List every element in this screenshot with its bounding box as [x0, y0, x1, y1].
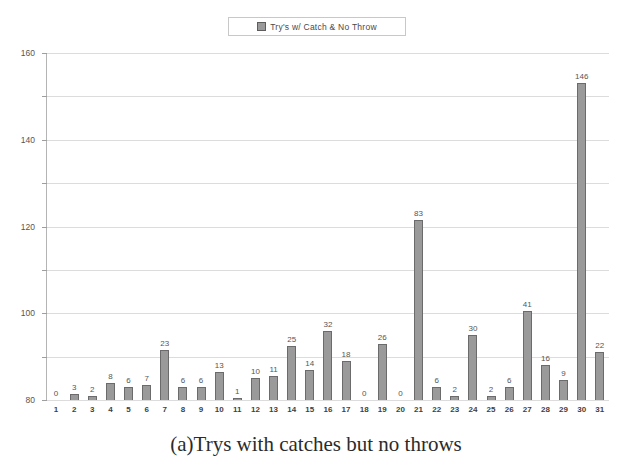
bar-column[interactable]: 2 — [446, 53, 464, 400]
legend-label: Try's w/ Catch & No Throw — [270, 22, 377, 32]
bar-value-label: 18 — [342, 350, 351, 359]
y-tick-label: 80 — [26, 395, 35, 405]
bar[interactable] — [559, 380, 568, 400]
x-tick-label: 13 — [265, 405, 283, 414]
bar-value-label: 25 — [287, 335, 296, 344]
bar-column[interactable]: 32 — [319, 53, 337, 400]
bar-value-label: 2 — [90, 385, 94, 394]
chart-legend: Try's w/ Catch & No Throw — [228, 17, 406, 36]
bar-column[interactable]: 11 — [265, 53, 283, 400]
bar-value-label: 8 — [108, 372, 112, 381]
bar-value-label: 13 — [215, 361, 224, 370]
x-tick-label: 5 — [120, 405, 138, 414]
bar-column[interactable]: 83 — [410, 53, 428, 400]
bar-value-label: 6 — [199, 376, 203, 385]
square-swatch-icon — [257, 22, 266, 31]
plot-area: 020406080100120140160 032867236613110112… — [46, 53, 609, 401]
bar-column[interactable]: 14 — [301, 53, 319, 400]
x-tick-label: 16 — [319, 405, 337, 414]
bar[interactable] — [342, 361, 351, 400]
bar-column[interactable]: 6 — [428, 53, 446, 400]
bar-value-label: 11 — [269, 365, 277, 374]
bar[interactable] — [106, 383, 115, 400]
bar-column[interactable]: 1 — [228, 53, 246, 400]
x-tick-label: 24 — [464, 405, 482, 414]
bar[interactable] — [124, 387, 133, 400]
bar[interactable] — [487, 396, 496, 400]
bar[interactable] — [197, 387, 206, 400]
bar-column[interactable]: 10 — [246, 53, 264, 400]
bar-value-label: 9 — [561, 369, 565, 378]
bar[interactable] — [251, 378, 260, 400]
bar[interactable] — [577, 83, 586, 400]
bar-column[interactable]: 23 — [156, 53, 174, 400]
bar[interactable] — [595, 352, 604, 400]
bar[interactable] — [269, 376, 278, 400]
bar-value-label: 0 — [54, 389, 58, 398]
bar-column[interactable]: 26 — [373, 53, 391, 400]
bar-value-label: 0 — [362, 389, 366, 398]
bar[interactable] — [468, 335, 477, 400]
x-axis-labels: 1234567891011121314151617181920212223242… — [47, 405, 609, 414]
bar-value-label: 146 — [575, 72, 588, 81]
bar[interactable] — [215, 372, 224, 400]
bar-column[interactable]: 2 — [482, 53, 500, 400]
x-tick-label: 26 — [500, 405, 518, 414]
x-tick-label: 25 — [482, 405, 500, 414]
bar-column[interactable]: 2 — [83, 53, 101, 400]
bar[interactable] — [287, 346, 296, 400]
bar-column[interactable]: 18 — [337, 53, 355, 400]
x-tick-label: 15 — [301, 405, 319, 414]
bar-column[interactable]: 8 — [101, 53, 119, 400]
bar-column[interactable]: 146 — [573, 53, 591, 400]
bar-column[interactable]: 6 — [120, 53, 138, 400]
x-tick-label: 2 — [65, 405, 83, 414]
bar[interactable] — [541, 365, 550, 400]
bar[interactable] — [323, 331, 332, 400]
x-tick-label: 18 — [355, 405, 373, 414]
bar-column[interactable]: 3 — [65, 53, 83, 400]
bar[interactable] — [233, 398, 242, 400]
bar-value-label: 2 — [453, 385, 457, 394]
x-tick-label: 29 — [555, 405, 573, 414]
bar-column[interactable]: 7 — [138, 53, 156, 400]
x-tick-label: 20 — [391, 405, 409, 414]
bar-value-label: 2 — [489, 385, 493, 394]
bar[interactable] — [432, 387, 441, 400]
bar[interactable] — [305, 370, 314, 400]
bar[interactable] — [160, 350, 169, 400]
bar-value-label: 16 — [541, 354, 550, 363]
bar[interactable] — [178, 387, 187, 400]
bar-column[interactable]: 9 — [555, 53, 573, 400]
x-tick-label: 31 — [591, 405, 609, 414]
y-tick-mark: 0 — [42, 400, 47, 401]
x-tick-label: 19 — [373, 405, 391, 414]
bar-column[interactable]: 6 — [500, 53, 518, 400]
bar-column[interactable]: 16 — [536, 53, 554, 400]
bar[interactable] — [414, 220, 423, 400]
bar-column[interactable]: 6 — [192, 53, 210, 400]
bar[interactable] — [70, 394, 79, 401]
x-tick-label: 22 — [428, 405, 446, 414]
x-tick-label: 27 — [518, 405, 536, 414]
bar-column[interactable]: 30 — [464, 53, 482, 400]
bar-column[interactable]: 13 — [210, 53, 228, 400]
bar-column[interactable]: 6 — [174, 53, 192, 400]
bar[interactable] — [142, 385, 151, 400]
bar-column[interactable]: 0 — [355, 53, 373, 400]
bar-value-label: 6 — [181, 376, 185, 385]
x-tick-label: 7 — [156, 405, 174, 414]
bar-column[interactable]: 0 — [47, 53, 65, 400]
bar-column[interactable]: 41 — [518, 53, 536, 400]
bar[interactable] — [88, 396, 97, 400]
bar[interactable] — [523, 311, 532, 400]
x-tick-label: 9 — [192, 405, 210, 414]
bar[interactable] — [505, 387, 514, 400]
x-tick-label: 10 — [210, 405, 228, 414]
bar-column[interactable]: 25 — [283, 53, 301, 400]
bar[interactable] — [378, 344, 387, 400]
bar-column[interactable]: 0 — [391, 53, 409, 400]
x-tick-label: 28 — [536, 405, 554, 414]
bar-column[interactable]: 22 — [591, 53, 609, 400]
bar[interactable] — [450, 396, 459, 400]
